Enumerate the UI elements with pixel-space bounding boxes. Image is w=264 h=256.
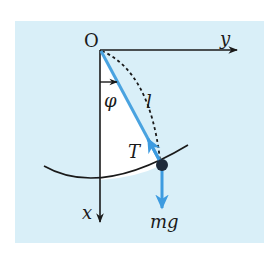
origin-label: O — [84, 30, 99, 51]
tension-label: T — [128, 141, 142, 162]
pendulum-diagram: O y x φ l T mg — [0, 0, 264, 256]
x-axis-label: x — [82, 202, 92, 223]
angle-label: φ — [104, 90, 117, 111]
y-axis-label: y — [219, 28, 231, 49]
gravity-label: mg — [150, 211, 179, 232]
pendulum-bob — [156, 159, 168, 171]
length-label: l — [146, 91, 152, 112]
